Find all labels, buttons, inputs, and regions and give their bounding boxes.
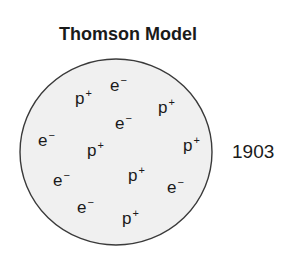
thomson-model-diagram: Thomson Model p+e−p+e−e−p+p+e−p+e−e−p+ 1… [0, 0, 299, 256]
proton-symbol: p [75, 89, 84, 108]
electron-charge: − [87, 196, 93, 208]
electron-charge: − [48, 129, 54, 141]
proton-symbol: p [122, 209, 131, 228]
proton-charge: + [85, 87, 91, 99]
proton-charge: + [168, 96, 174, 108]
electron-symbol: e [110, 76, 119, 95]
proton-charge: + [132, 207, 138, 219]
electron-charge: − [120, 74, 126, 86]
year-label: 1903 [232, 141, 274, 162]
electron-symbol: e [115, 114, 124, 133]
proton-symbol: p [158, 98, 167, 117]
electron-charge: − [125, 112, 131, 124]
proton-symbol: p [87, 141, 96, 160]
proton-symbol: p [128, 166, 137, 185]
proton-charge: + [97, 139, 103, 151]
electron-symbol: e [167, 178, 176, 197]
electron-symbol: e [53, 171, 62, 190]
electron-charge: − [177, 176, 183, 188]
electron-symbol: e [38, 131, 47, 150]
proton-charge: + [193, 134, 199, 146]
electron-charge: − [63, 169, 69, 181]
electron-symbol: e [77, 198, 86, 217]
proton-charge: + [138, 164, 144, 176]
diagram-title: Thomson Model [59, 24, 197, 44]
proton-symbol: p [183, 136, 192, 155]
